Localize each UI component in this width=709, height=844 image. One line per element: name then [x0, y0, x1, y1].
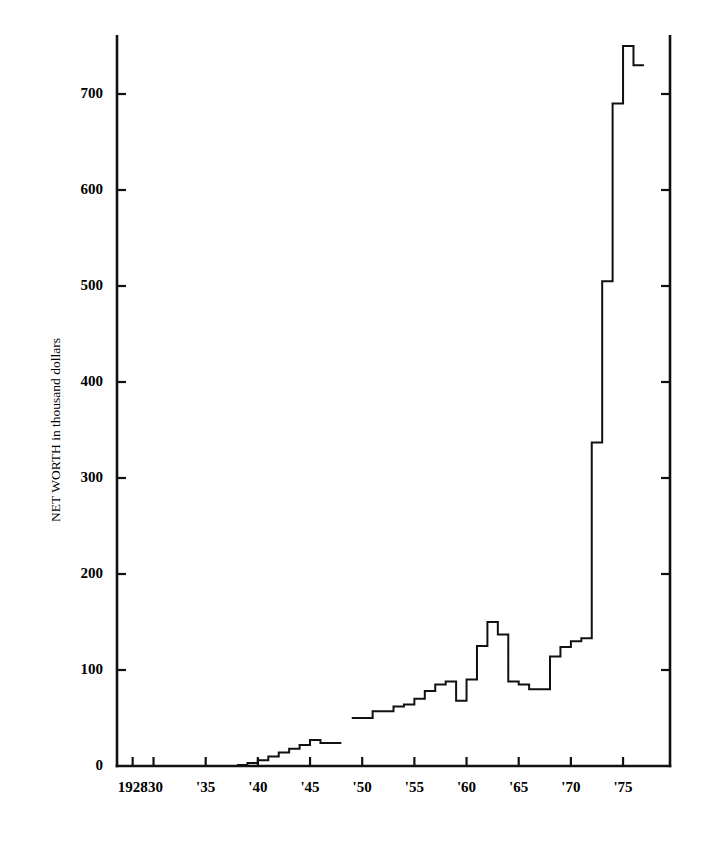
- x-tick-label-1945: '45: [300, 779, 319, 795]
- y-tick-label-700: 700: [81, 85, 104, 101]
- x-tick-label-1940: '40: [248, 779, 267, 795]
- data-series-line: [237, 46, 644, 765]
- chart-canvas: 0100200300400500600700 1928'30'35'40'45'…: [0, 0, 709, 844]
- y-axis-ticks: [117, 94, 670, 670]
- y-axis-tick-labels: 0100200300400500600700: [81, 85, 104, 773]
- y-tick-label-500: 500: [81, 277, 104, 293]
- axes-group: [117, 36, 670, 766]
- net-worth-chart-figure: 0100200300400500600700 1928'30'35'40'45'…: [0, 0, 709, 844]
- x-axis-tick-labels: 1928'30'35'40'45'50'55'60'65'70'75: [118, 779, 633, 795]
- x-tick-label-1955: '55: [405, 779, 424, 795]
- y-axis-title: NET WORTH in thousand dollars: [48, 338, 63, 522]
- y-tick-label-600: 600: [81, 181, 104, 197]
- x-tick-label-1930: '30: [144, 779, 163, 795]
- y-tick-label-100: 100: [81, 661, 104, 677]
- x-tick-label-1950: '50: [353, 779, 372, 795]
- x-tick-label-1965: '65: [509, 779, 528, 795]
- x-tick-label-1960: '60: [457, 779, 476, 795]
- y-tick-label-300: 300: [81, 469, 104, 485]
- x-tick-label-1975: '75: [613, 779, 632, 795]
- data-line-late-period: [352, 46, 644, 718]
- x-tick-label-1970: '70: [561, 779, 580, 795]
- x-axis-ticks: [133, 757, 623, 766]
- y-tick-label-200: 200: [81, 565, 104, 581]
- y-tick-label-0: 0: [96, 757, 104, 773]
- x-tick-label-1935: '35: [196, 779, 215, 795]
- y-tick-label-400: 400: [81, 373, 104, 389]
- data-line-early-period: [237, 740, 341, 765]
